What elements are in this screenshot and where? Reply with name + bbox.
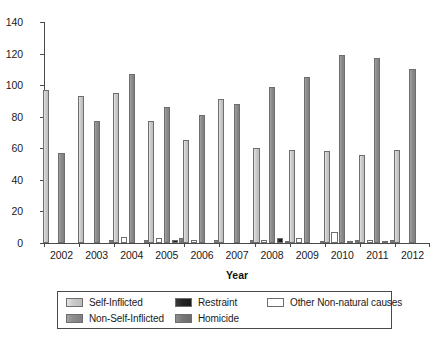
bar-other-non-natural-causes-2010 (331, 232, 337, 243)
bar-non-self-inflicted-2007 (234, 104, 240, 243)
bar-self-inflicted-2007 (218, 99, 224, 243)
bar-restraint-2010 (347, 241, 353, 243)
bar-self-inflicted-2009 (289, 150, 295, 243)
x-tick-label-2004: 2004 (112, 250, 152, 261)
bar-non-self-inflicted-2009 (304, 77, 310, 243)
y-tick-label-40: 40 (0, 175, 23, 185)
x-tick-label-2008: 2008 (252, 250, 292, 261)
bar-other-non-natural-causes-2008 (261, 240, 267, 243)
y-tick-label-0: 0 (0, 238, 23, 248)
x-tick-label-2003: 2003 (77, 250, 117, 261)
bar-chart-figure: 020406080100120140 200220032004200520062… (0, 0, 446, 340)
legend-label-restraint: Restraint (198, 297, 237, 308)
legend-swatch-homicide (175, 314, 192, 323)
legend-label-non-self-inflicted: Non-Self-Inflicted (89, 313, 164, 324)
chart-legend: Self-Inflicted Restraint Other Non-natur… (57, 291, 392, 329)
bar-non-self-inflicted-2010 (339, 55, 345, 243)
bar-non-self-inflicted-2003 (94, 121, 100, 243)
y-tick-label-60: 60 (0, 143, 23, 153)
bar-self-inflicted-2005 (148, 121, 154, 243)
bar-non-self-inflicted-2012 (409, 69, 415, 243)
bar-self-inflicted-2004 (113, 93, 119, 243)
bar-self-inflicted-2003 (78, 96, 84, 243)
legend-item-self-inflicted: Self-Inflicted (66, 297, 143, 308)
bar-non-self-inflicted-2005 (164, 107, 170, 243)
y-tick-label-140: 140 (0, 17, 23, 27)
legend-item-restraint: Restraint (175, 297, 237, 308)
bar-other-non-natural-causes-2009 (296, 238, 302, 243)
bar-series-group (44, 22, 430, 244)
x-tick-label-2012: 2012 (392, 250, 432, 261)
bar-non-self-inflicted-2002 (58, 153, 64, 243)
bar-non-self-inflicted-2011 (374, 58, 380, 243)
legend-label-homicide: Homicide (198, 313, 239, 324)
y-tick-label-100: 100 (0, 80, 23, 90)
x-tick-label-2010: 2010 (322, 250, 362, 261)
bar-restraint-2005 (172, 240, 178, 243)
bar-other-non-natural-causes-2011 (367, 240, 373, 243)
legend-row-1: Self-Inflicted Restraint Other Non-natur… (58, 295, 391, 310)
y-tick-label-80: 80 (0, 112, 23, 122)
x-tick-label-2011: 2011 (357, 250, 397, 261)
bar-non-self-inflicted-2004 (129, 74, 135, 243)
legend-item-other-non-natural-causes: Other Non-natural causes (267, 297, 402, 308)
bar-other-non-natural-causes-2004 (121, 237, 127, 243)
legend-swatch-restraint (175, 298, 192, 307)
bar-self-inflicted-2010 (324, 151, 330, 243)
x-tick-label-2009: 2009 (287, 250, 327, 261)
legend-item-non-self-inflicted: Non-Self-Inflicted (66, 313, 164, 324)
y-tick-label-120: 120 (0, 49, 23, 59)
bar-self-inflicted-2008 (253, 148, 259, 243)
legend-row-2: Non-Self-Inflicted Homicide (58, 311, 391, 326)
bar-other-non-natural-causes-2006 (191, 240, 197, 243)
bar-self-inflicted-2002 (43, 90, 49, 243)
bar-other-non-natural-causes-2005 (156, 238, 162, 243)
legend-swatch-other-non-natural-causes (267, 298, 284, 307)
bar-self-inflicted-2011 (359, 155, 365, 243)
bar-self-inflicted-2006 (183, 140, 189, 243)
x-tick-label-2005: 2005 (147, 250, 187, 261)
legend-label-self-inflicted: Self-Inflicted (89, 297, 143, 308)
x-tick-label-2007: 2007 (217, 250, 257, 261)
bar-non-self-inflicted-2008 (269, 87, 275, 243)
y-tick-label-20: 20 (0, 206, 23, 216)
legend-swatch-non-self-inflicted (66, 314, 83, 323)
legend-item-homicide: Homicide (175, 313, 239, 324)
x-tick-label-2006: 2006 (182, 250, 222, 261)
bar-self-inflicted-2012 (394, 150, 400, 243)
bar-restraint-2011 (382, 241, 388, 243)
legend-swatch-self-inflicted (66, 298, 83, 307)
bar-non-self-inflicted-2006 (199, 115, 205, 243)
x-axis-title: Year (44, 269, 430, 281)
plot-area: 020406080100120140 200220032004200520062… (44, 22, 430, 244)
bar-restraint-2008 (277, 238, 283, 243)
x-tick-label-2002: 2002 (42, 250, 82, 261)
legend-label-other-non-natural-causes: Other Non-natural causes (290, 297, 402, 308)
